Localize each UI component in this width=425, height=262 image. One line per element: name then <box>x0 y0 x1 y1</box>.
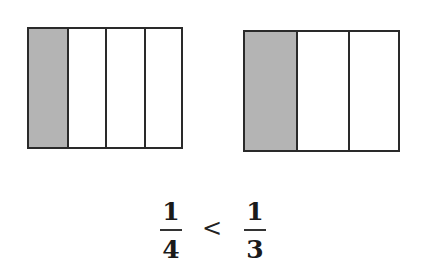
numerator: 1 <box>244 199 266 224</box>
shaded-part <box>245 32 298 150</box>
fraction-model-thirds <box>243 30 400 152</box>
fraction-model-fourths <box>27 27 183 149</box>
numerator: 1 <box>160 199 182 224</box>
fraction-bar <box>244 229 266 231</box>
unshaded-part <box>298 32 350 150</box>
fraction-one-fourth: 1 4 <box>160 199 182 262</box>
denominator: 3 <box>244 237 266 262</box>
shaded-part <box>29 29 69 147</box>
unshaded-part <box>146 29 181 147</box>
less-than-symbol: < <box>202 214 222 242</box>
unshaded-part <box>69 29 107 147</box>
denominator: 4 <box>160 237 182 262</box>
fraction-bar <box>160 229 182 231</box>
unshaded-part <box>350 32 398 150</box>
unshaded-part <box>107 29 146 147</box>
fraction-one-third: 1 3 <box>244 199 266 262</box>
